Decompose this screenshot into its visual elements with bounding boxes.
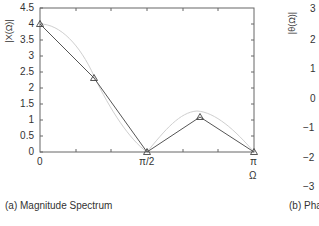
y-tick-label: 4.5 — [12, 3, 34, 13]
y-tick-label: 3.5 — [12, 35, 34, 45]
x-tick-label: 0 — [37, 157, 43, 167]
y-tick-label: 4 — [12, 19, 34, 29]
magnitude-plot — [0, 0, 319, 226]
x-tick-label: π/2 — [139, 157, 154, 167]
y-tick-label: 1 — [12, 115, 34, 125]
plot-frame — [40, 8, 254, 152]
triangle-markers — [37, 21, 258, 155]
phase-y-tick-label: −2 — [303, 153, 314, 163]
phase-y-tick-label: 3 — [310, 4, 316, 14]
y-tick-label: 0.5 — [12, 131, 34, 141]
caption-phase-spectrum: (b) Pha — [289, 200, 319, 211]
y-tick-label: 3 — [12, 51, 34, 61]
phase-y-tick-label: −1 — [303, 123, 314, 133]
y-tick-label: 1.5 — [12, 99, 34, 109]
continuous-magnitude-curve — [40, 24, 254, 152]
x-tick-label: π — [250, 157, 257, 167]
y-ticks — [40, 8, 254, 152]
caption-magnitude-spectrum: (a) Magnitude Spectrum — [5, 200, 112, 211]
y-tick-label: 2.5 — [12, 67, 34, 77]
y-axis-label: |X(Ω)| — [4, 16, 14, 46]
phase-y-tick-label: −3 — [303, 182, 314, 192]
phase-y-tick-label: 1 — [310, 64, 316, 74]
phase-y-tick-label: 0 — [310, 94, 316, 104]
phase-y-tick-label: 2 — [310, 35, 316, 45]
y-tick-label: 0 — [12, 147, 34, 157]
y-tick-label: 2 — [12, 83, 34, 93]
sampled-magnitude-line — [40, 24, 254, 152]
phase-y-axis-label: |θ(Ω)| — [287, 8, 297, 38]
x-axis-label: Ω — [249, 171, 256, 181]
